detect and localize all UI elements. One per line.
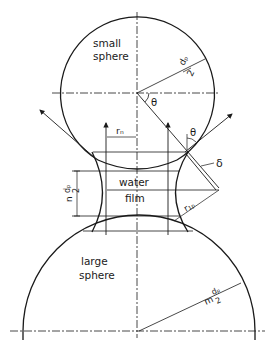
gap-label-numerator: dₚ <box>63 184 72 193</box>
water-film-label-line1: water <box>119 176 150 188</box>
delta-offset-line <box>186 154 216 190</box>
small-sphere-label-line2: sphere <box>93 50 129 62</box>
small-sphere-bottom-arc <box>98 160 177 169</box>
delta-leader <box>201 163 214 166</box>
theta-contact-label: θ <box>190 127 196 138</box>
large-sphere-outline <box>23 215 255 340</box>
r1p-radius-line <box>174 190 219 221</box>
rn-label: rₙ <box>116 125 124 136</box>
r1p-label: r₁ₚ <box>182 199 197 213</box>
diagram-canvas: dₚ 2 θ small sphere rₙ θ δ r₁ₚ water fil… <box>0 0 268 345</box>
gap-label-denominator: 2 <box>72 188 81 193</box>
small-sphere-radius-line <box>137 59 205 93</box>
small-sphere-label-line1: small <box>93 37 121 49</box>
delta-label: δ <box>216 157 223 170</box>
theta-arc-center <box>145 93 149 102</box>
theta-center-label: θ <box>151 97 157 108</box>
small-radius-denominator: 2 <box>185 68 197 78</box>
gap-label: n <box>64 196 74 202</box>
left-meniscus <box>92 152 103 232</box>
large-sphere-label-line1: large <box>81 255 108 267</box>
small-radius-label: dₚ <box>177 54 190 67</box>
large-sphere <box>23 215 255 340</box>
theta-arc-contact <box>187 138 196 142</box>
right-meniscus <box>176 152 189 232</box>
large-sphere-label-line2: sphere <box>79 269 115 281</box>
large-sphere-radius-line <box>139 283 241 331</box>
liquid-bridge-diagram: dₚ 2 θ small sphere rₙ θ δ r₁ₚ water fil… <box>0 0 268 345</box>
large-radius-denominator: 2 <box>214 296 222 306</box>
left-tangent-arrow <box>40 110 95 158</box>
water-film-label-line2: film <box>125 192 145 204</box>
large-radius-numerator: dₚ <box>210 285 222 297</box>
